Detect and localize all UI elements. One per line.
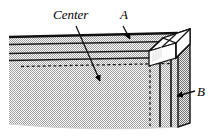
- label-center: Center: [53, 8, 88, 21]
- label-b: B: [197, 85, 205, 98]
- technical-diagram: Center A B: [0, 0, 219, 140]
- label-a: A: [120, 8, 128, 21]
- diagram-canvas: [0, 0, 219, 140]
